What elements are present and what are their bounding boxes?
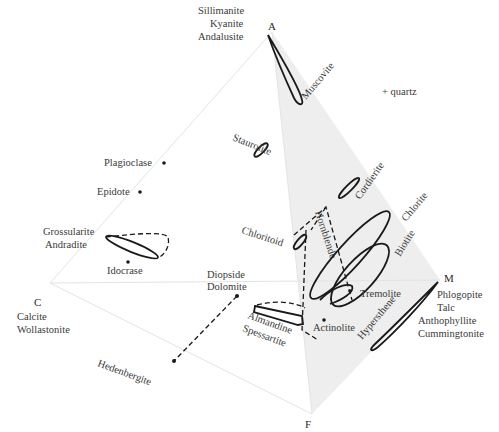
grossularite-label: Grossularite [43, 226, 95, 237]
grossularite-andradite-field [104, 232, 160, 262]
tremolite-point [348, 289, 352, 293]
vertex-m-mineral-2: Talc [437, 302, 455, 313]
idocrase-point [126, 260, 130, 264]
quartz-note: + quartz [382, 86, 417, 97]
plagioclase-point [162, 161, 166, 165]
mineral-tetrahedron-diagram: A Sillimanite Kyanite Andalusite + quart… [0, 0, 499, 432]
hedenbergite-label: Hedenbergite [96, 358, 153, 388]
vertex-a-mineral-2: Kyanite [210, 18, 244, 29]
diopside-label: Diopside [207, 269, 245, 280]
vertex-c-label: C [34, 296, 41, 308]
vertex-a-label: A [268, 20, 276, 32]
vertex-a-mineral-1: Sillimanite [198, 5, 244, 16]
idocrase-label: Idocrase [107, 265, 143, 276]
hedenbergite-point [172, 359, 176, 363]
dolomite-label: Dolomite [207, 281, 247, 292]
vertex-c-mineral-1: Calcite [17, 311, 47, 322]
vertex-m-mineral-1: Phlogopite [437, 289, 483, 300]
epidote-label: Epidote [97, 186, 130, 197]
chloritoid-label: Chloritoid [240, 224, 285, 248]
chlorite-label: Chlorite [399, 190, 430, 224]
vertex-m-mineral-4: Cummingtonite [418, 328, 484, 339]
staurolite-label: Staurolite [231, 132, 273, 158]
andradite-label: Andradite [45, 239, 87, 250]
plagioclase-label: Plagioclase [104, 157, 152, 168]
vertex-m-label: M [444, 272, 454, 284]
vertex-f-label: F [305, 418, 311, 430]
vertex-c-mineral-2: Wollastonite [17, 324, 70, 335]
tremolite-label: Tremolite [360, 288, 401, 299]
actinolite-label: Actinolite [313, 322, 355, 333]
diopside-hedenbergite-tie-line [174, 296, 237, 361]
epidote-point [138, 190, 142, 194]
vertex-m-mineral-3: Anthophyllite [418, 315, 477, 326]
vertex-a-mineral-3: Andalusite [198, 31, 244, 42]
